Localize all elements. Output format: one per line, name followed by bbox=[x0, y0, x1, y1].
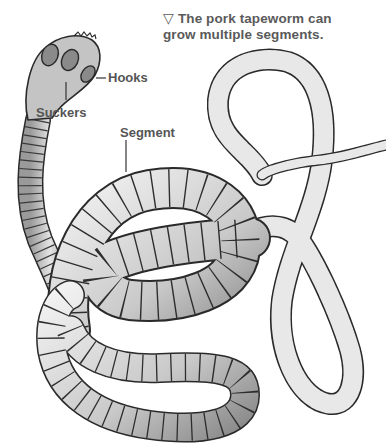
label-suckers: Suckers bbox=[36, 105, 87, 120]
tapeworm-illustration: ▽ The pork tapeworm can grow multiple se… bbox=[0, 0, 386, 444]
tapeworm-drawing bbox=[0, 0, 386, 444]
label-segment: Segment bbox=[120, 125, 175, 140]
label-hooks: Hooks bbox=[108, 70, 148, 85]
figure-caption: ▽ The pork tapeworm can grow multiple se… bbox=[163, 11, 332, 43]
caption-line-2: grow multiple segments. bbox=[163, 27, 324, 42]
caption-line-1: The pork tapeworm can bbox=[178, 11, 332, 26]
main-coil-segments bbox=[68, 188, 250, 330]
caption-triangle-icon: ▽ bbox=[163, 11, 174, 26]
